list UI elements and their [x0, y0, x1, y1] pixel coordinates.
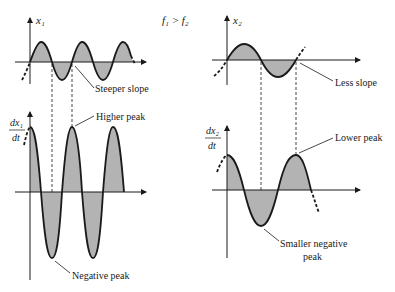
x2-curve-dashed-end	[296, 47, 305, 60]
steeper-slope-pointer	[75, 66, 94, 88]
x2-plot: x₂ Less slope	[212, 14, 378, 88]
higher-peak-pointer	[75, 116, 94, 126]
x1-curve-dashed-start	[22, 62, 30, 80]
dx2dt-curve-dashed-start	[217, 155, 227, 172]
lower-peak-label: Lower peak	[335, 132, 382, 143]
smaller-negative-peak-pointer	[264, 229, 279, 241]
dx2dt-label-denominator: dt	[208, 140, 216, 151]
x2-axis-label: x₂	[232, 14, 242, 26]
negative-peak-label: Negative peak	[72, 270, 129, 281]
steeper-slope-label: Steeper slope	[95, 83, 149, 94]
x1-axis-label: x₁	[35, 14, 45, 26]
dx1dt-plot: dx₁ dt Higher peak Negative peak	[9, 111, 146, 281]
x1-plot: x₁ Steeper slope	[15, 14, 149, 94]
x2-curve-dashed-start	[214, 60, 227, 76]
less-slope-pointer	[300, 63, 333, 81]
lower-peak-pointer	[299, 138, 333, 153]
dx2dt-label-numerator: dx₂	[206, 125, 219, 136]
frequency-condition-label: f₁ > f₂	[162, 14, 189, 26]
smaller-negative-peak-label-line2: peak	[303, 251, 322, 262]
dx2dt-curve-dashed-end	[311, 190, 319, 213]
dx1dt-label-denominator: dt	[12, 132, 20, 143]
negative-peak-pointer	[55, 261, 70, 273]
less-slope-label: Less slope	[335, 77, 378, 88]
dx2dt-plot: dx₂ dt Lower peak Smaller negative peak	[205, 125, 382, 262]
dx1dt-label-numerator: dx₁	[10, 117, 23, 128]
smaller-negative-peak-label-line1: Smaller negative	[280, 238, 348, 249]
higher-peak-label: Higher peak	[96, 111, 145, 122]
derivative-frequency-diagram: x₁ Steeper slope dx₁ dt Higher peak Nega…	[0, 0, 395, 292]
